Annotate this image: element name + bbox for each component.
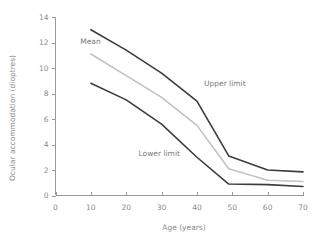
x-axis-title: Age (years): [162, 223, 205, 232]
x-tick-label: 20: [121, 203, 131, 212]
y-tick-label: 14: [39, 13, 49, 22]
y-axis: 02468101214: [39, 13, 56, 201]
x-tick-label: 40: [192, 203, 202, 212]
series-line-upper-limit: [91, 30, 303, 172]
y-tick-label: 12: [39, 38, 49, 47]
x-tick-label: 0: [53, 203, 58, 212]
x-tick-label: 50: [228, 203, 238, 212]
y-tick-label: 8: [44, 89, 49, 98]
ocular-accommodation-chart: 02468101214 010203040506070 Upper limitM…: [0, 0, 319, 244]
series-label-upper-limit: Upper limit: [204, 79, 246, 88]
y-axis-title: Ocular accommodation (dioptres): [8, 55, 17, 181]
series-annotations: Upper limitMeanLower limit: [80, 37, 245, 158]
x-tick-label: 10: [86, 203, 96, 212]
x-tick-label: 60: [263, 203, 273, 212]
x-tick-label: 70: [298, 203, 308, 212]
x-axis: 010203040506070: [53, 192, 308, 212]
y-tick-label: 0: [44, 191, 49, 200]
series-line-mean: [91, 54, 303, 182]
y-tick-label: 10: [39, 64, 49, 73]
x-axis-tick-labels: 010203040506070: [53, 203, 308, 212]
series-group: [91, 30, 303, 187]
x-axis-ticks: [57, 192, 304, 196]
series-label-lower-limit: Lower limit: [139, 149, 180, 158]
y-tick-label: 6: [44, 115, 49, 124]
y-axis-ticks: [52, 18, 56, 197]
y-axis-tick-labels: 02468101214: [39, 13, 49, 201]
y-tick-label: 4: [44, 140, 49, 149]
x-tick-label: 30: [157, 203, 167, 212]
series-label-mean: Mean: [80, 37, 101, 46]
chart-svg: 02468101214 010203040506070 Upper limitM…: [0, 0, 319, 244]
series-line-lower-limit: [91, 83, 303, 186]
y-tick-label: 2: [44, 166, 49, 175]
